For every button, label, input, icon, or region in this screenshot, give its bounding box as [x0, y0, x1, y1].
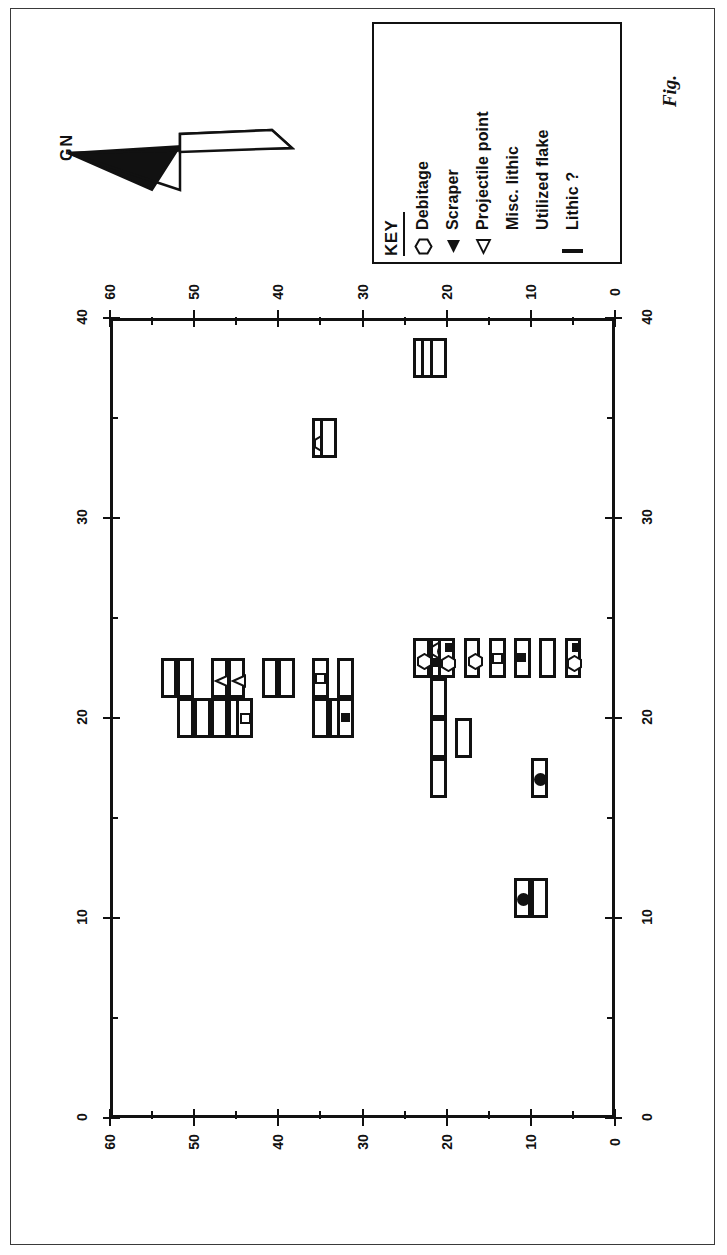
square-filled-icon [517, 653, 526, 662]
square-filled-icon [534, 237, 553, 256]
excavation-unit-cell [236, 698, 253, 738]
tick-label-left: 40 [74, 297, 90, 337]
tick-label-left: 0 [74, 1097, 90, 1137]
excavation-unit-cell [177, 658, 194, 698]
hexagon-outline-icon [566, 655, 583, 676]
tick-label-right: 30 [639, 497, 655, 537]
excavation-unit-cell [531, 878, 548, 918]
tick-label-right: 10 [639, 897, 655, 937]
tick-left [110, 1017, 118, 1019]
excavation-unit-cell [278, 658, 295, 698]
legend-box: KEY Debitage Scraper Projectile point Mi… [372, 22, 622, 264]
tick-right [605, 1117, 622, 1119]
tick-label-bottom: 20 [439, 1122, 455, 1162]
triangle-outline-icon [474, 237, 493, 256]
tick-label-top: 50 [186, 272, 202, 312]
north-arrow-label: GN [52, 118, 82, 178]
legend-content: KEY Debitage Scraper Projectile point Mi… [374, 24, 624, 266]
excavation-unit-cell [413, 638, 430, 678]
excavation-unit-cell [430, 678, 447, 718]
legend-label: Debitage [414, 161, 432, 230]
tick-top [193, 310, 195, 327]
excavation-unit-cell [211, 698, 228, 738]
tick-top [362, 310, 364, 327]
tick-label-top: 20 [439, 272, 455, 312]
excavation-unit-cell [438, 638, 455, 678]
tick-right [605, 717, 622, 719]
figure-caption-text: Fig. [659, 61, 681, 121]
triangle-filled-icon [444, 237, 463, 256]
excavation-unit-cell [455, 718, 472, 758]
tick-right [607, 617, 615, 619]
legend-label: Misc. lithic [504, 146, 522, 230]
excavation-unit-cell [531, 758, 548, 798]
excavation-unit-cell [489, 638, 506, 678]
tick-right [605, 317, 622, 319]
square-outline-icon [564, 237, 583, 256]
excavation-unit-cell [430, 338, 447, 378]
tick-bottom [488, 1111, 490, 1119]
excavation-unit-cell [320, 418, 337, 458]
square-filled-icon [445, 643, 454, 652]
tick-label-left: 10 [74, 897, 90, 937]
tick-label-top: 0 [607, 272, 623, 312]
tick-label-bottom: 60 [102, 1122, 118, 1162]
tick-left [103, 317, 120, 319]
tick-label-top: 60 [102, 272, 118, 312]
hexagon-outline-icon [440, 655, 457, 676]
tick-bottom [151, 1111, 153, 1119]
tick-label-bottom: 10 [523, 1122, 539, 1162]
tick-left [110, 417, 118, 419]
tick-label-bottom: 40 [270, 1122, 286, 1162]
circle-filled-icon [534, 773, 547, 786]
tick-left [103, 717, 120, 719]
excavation-unit-cell [430, 758, 447, 798]
tick-label-left: 30 [74, 497, 90, 537]
tick-right [605, 917, 622, 919]
tick-top [572, 317, 574, 325]
circle-filled-icon [504, 237, 523, 256]
excavation-unit-cell [464, 638, 481, 678]
hexagon-outline-icon [467, 653, 484, 674]
excavation-unit-cell [262, 658, 279, 698]
tick-top [235, 317, 237, 325]
tick-right [607, 1017, 615, 1019]
excavation-unit-cell [430, 718, 447, 758]
legend-label: Utilized flake [534, 129, 552, 230]
tick-label-bottom: 50 [186, 1122, 202, 1162]
tick-right [607, 417, 615, 419]
tick-bottom [572, 1111, 574, 1119]
triangle-outline-icon [231, 673, 247, 693]
gn-text: GN [58, 117, 76, 177]
tick-left [103, 1117, 120, 1119]
excavation-unit-cell [514, 878, 531, 918]
circle-filled-icon [517, 893, 530, 906]
legend-label: Scraper [444, 169, 462, 230]
tick-label-left: 20 [74, 697, 90, 737]
tick-label-right: 40 [639, 297, 655, 337]
legend-label: Projectile point [474, 111, 492, 230]
excavation-unit-cell [312, 698, 329, 738]
tick-label-right: 0 [639, 1097, 655, 1137]
hexagon-outline-icon [414, 237, 433, 256]
excavation-unit-cell [514, 638, 531, 678]
excavation-unit-cell [177, 698, 194, 738]
legend-entry-misc-lithic: Misc. lithic [498, 34, 528, 256]
square-filled-icon [572, 643, 581, 652]
legend-title: KEY [382, 212, 405, 256]
excavation-unit-cell [337, 698, 354, 738]
legend-entry-debitage: Debitage [408, 34, 438, 256]
tick-label-top: 10 [523, 272, 539, 312]
legend-entry-projectile-point: Projectile point [468, 34, 498, 256]
tick-top [151, 317, 153, 325]
tick-label-bottom: 0 [607, 1122, 623, 1162]
excavation-unit-cell [312, 658, 329, 698]
tick-bottom [319, 1111, 321, 1119]
excavation-unit-cell [211, 658, 228, 698]
tick-label-top: 40 [270, 272, 286, 312]
figure-caption-label: Fig. [640, 62, 700, 122]
tick-top [404, 317, 406, 325]
excavation-unit-cell [228, 658, 245, 698]
excavation-unit-cell [161, 658, 178, 698]
square-outline-icon [240, 713, 251, 724]
